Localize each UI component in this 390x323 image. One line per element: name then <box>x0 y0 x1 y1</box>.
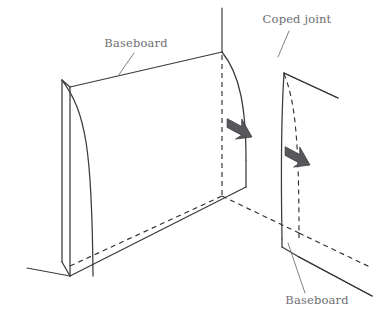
coped-joint-diagram: Baseboard Coped joint Baseboard <box>0 0 390 323</box>
left-baseboard-top-edge <box>70 52 222 87</box>
leader-line-baseboard-right <box>288 243 305 293</box>
baseboard-right-label: Baseboard <box>285 293 349 307</box>
insertion-arrows <box>221 113 316 173</box>
right-baseboard-bottom-front-edge <box>282 247 299 257</box>
right-baseboard-bottom-front-edge-ext <box>299 257 372 296</box>
diagram-canvas: Baseboard Coped joint Baseboard <box>0 0 390 323</box>
insertion-arrow-upper <box>221 113 258 145</box>
leader-lines <box>118 31 305 293</box>
left-baseboard-molding-profile-curve <box>62 80 93 276</box>
right-baseboard-coped-front-curve <box>281 73 284 239</box>
leader-line-coped-joint <box>278 31 289 57</box>
right-wall-floor-hidden-line <box>222 196 299 233</box>
left-baseboard-corner-profile-curve <box>222 52 246 160</box>
room-reference-lines <box>27 8 372 296</box>
left-baseboard <box>62 52 246 276</box>
baseboard-left-label: Baseboard <box>104 36 168 50</box>
coped-joint-label: Coped joint <box>263 12 332 26</box>
right-baseboard-top-rear-edge <box>284 73 338 98</box>
left-baseboard-hidden-edges <box>70 55 372 268</box>
floor-line-left <box>27 268 70 276</box>
left-baseboard-left-bottom-edge <box>62 262 70 276</box>
left-baseboard-front-bottom-edge <box>70 187 246 276</box>
